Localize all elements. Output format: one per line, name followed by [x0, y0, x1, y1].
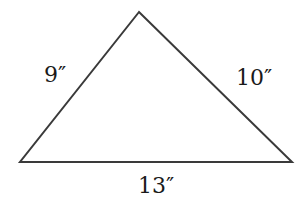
triangle-diagram: 9″ 10″ 13″: [0, 0, 308, 205]
side-label-left: 9″: [44, 64, 66, 86]
side-label-right: 10″: [236, 67, 272, 89]
side-label-bottom: 13″: [138, 175, 174, 197]
